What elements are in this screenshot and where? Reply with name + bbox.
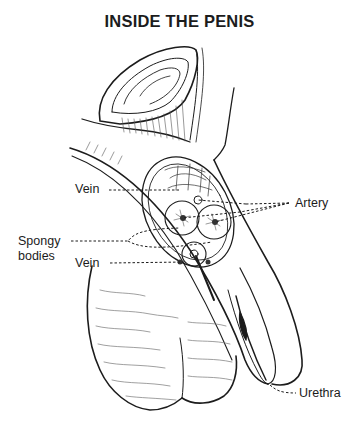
- label-vein-lower: Vein: [75, 256, 99, 270]
- scrotum-drawing: [87, 266, 236, 410]
- cross-section-drawing: [124, 141, 253, 300]
- label-spongy-bodies-line2: bodies: [18, 249, 55, 263]
- label-vein-upper: Vein: [75, 182, 99, 196]
- label-urethra: Urethra: [299, 386, 341, 400]
- leader-spongy-1: [71, 228, 180, 241]
- leader-artery-1: [198, 200, 246, 204]
- leader-vein-lower: [110, 262, 186, 263]
- leader-urethra: [270, 385, 296, 393]
- anatomy-illustration: [0, 0, 359, 437]
- pubic-structure-drawing: [82, 47, 234, 160]
- label-spongy-bodies-line1: Spongy: [18, 234, 60, 248]
- label-artery: Artery: [295, 196, 328, 210]
